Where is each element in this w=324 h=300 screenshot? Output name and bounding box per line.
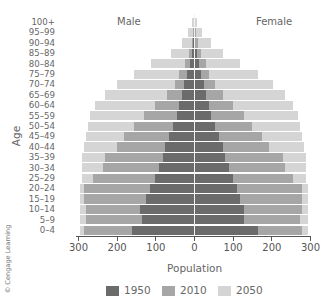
row-separator [70, 69, 320, 70]
age-label-95–99: 95–99 [29, 27, 55, 37]
age-label-45–49: 45–49 [29, 131, 55, 141]
female-bar-1950 [194, 111, 211, 120]
row-separator [70, 131, 320, 132]
male-bar-1950 [184, 80, 194, 89]
row-separator [70, 89, 320, 90]
male-bar-1950 [182, 90, 194, 99]
row-separator [70, 162, 320, 163]
female-bar-1950 [194, 132, 219, 141]
x-tick [194, 236, 195, 241]
male-bar-1950 [150, 184, 194, 193]
male-bar-1950 [159, 163, 194, 172]
copyright-credit: © Cengage Learning [4, 225, 12, 294]
row-separator [70, 27, 320, 28]
row-separator [70, 58, 320, 59]
male-bar-1950 [179, 101, 194, 110]
age-label-40–44: 40–44 [29, 142, 55, 152]
female-bar-1950 [194, 122, 215, 131]
age-label-35–39: 35–39 [29, 152, 55, 162]
x-tick-label: 300 [301, 242, 320, 253]
x-tick-label: 200 [262, 242, 281, 253]
x-tick-label: 100 [146, 242, 165, 253]
age-label-100+: 100+ [31, 17, 55, 27]
legend-swatch-1950 [106, 286, 119, 296]
female-bar-1950 [194, 184, 237, 193]
male-bar-1950 [165, 142, 194, 151]
male-bar-1950 [142, 215, 194, 224]
age-label-90–94: 90–94 [29, 38, 55, 48]
legend-swatch-2010 [162, 286, 175, 296]
male-bar-1950 [140, 205, 194, 214]
x-axis-line [76, 236, 310, 237]
male-bar-1950 [187, 70, 194, 79]
male-bar-1950 [155, 174, 194, 183]
x-tick-label: 200 [108, 242, 127, 253]
female-bar-1950 [194, 194, 240, 203]
male-bar-1950 [169, 132, 194, 141]
age-label-20–24: 20–24 [29, 183, 55, 193]
row-separator [70, 141, 320, 142]
male-bar-1950 [173, 122, 194, 131]
female-side-label: Female [256, 16, 292, 27]
x-tick [310, 236, 311, 241]
row-separator [70, 79, 320, 80]
age-label-60–64: 60–64 [29, 100, 55, 110]
age-label-10–14: 10–14 [29, 204, 55, 214]
female-bar-1950 [194, 80, 204, 89]
row-separator [70, 121, 320, 122]
row-separator [70, 183, 320, 184]
x-tick [155, 236, 156, 241]
male-side-label: Male [117, 16, 141, 27]
row-separator [70, 37, 320, 38]
row-separator [70, 152, 320, 153]
female-bar-1950 [194, 174, 233, 183]
age-label-5–9: 5–9 [40, 215, 55, 225]
age-label-55–59: 55–59 [29, 111, 55, 121]
x-tick-label: 100 [224, 242, 243, 253]
age-label-15–19: 15–19 [29, 194, 55, 204]
female-bar-1950 [194, 205, 244, 214]
age-label-80–84: 80–84 [29, 59, 55, 69]
female-bar-1950 [194, 226, 258, 235]
row-separator [70, 48, 320, 49]
age-label-30–34: 30–34 [29, 163, 55, 173]
x-tick [78, 236, 79, 241]
male-bar-1950 [177, 111, 194, 120]
female-bar-1950 [194, 153, 225, 162]
age-label-50–54: 50–54 [29, 121, 55, 131]
legend-label-1950: 1950 [124, 284, 151, 296]
x-tick [233, 236, 234, 241]
center-line [194, 14, 195, 236]
row-separator [70, 100, 320, 101]
legend-swatch-2050 [218, 286, 231, 296]
x-tick-label: 0 [191, 242, 197, 253]
female-bar-1950 [194, 70, 201, 79]
female-bar-1950 [194, 163, 229, 172]
age-label-65–69: 65–69 [29, 90, 55, 100]
row-separator [70, 110, 320, 111]
female-bar-1950 [194, 90, 206, 99]
age-label-85–89: 85–89 [29, 48, 55, 58]
row-separator [70, 173, 320, 174]
age-label-0–4: 0–4 [40, 225, 55, 235]
row-separator [70, 214, 320, 215]
row-separator [70, 225, 320, 226]
female-bar-1950 [194, 101, 209, 110]
female-bar-1950 [194, 215, 244, 224]
male-bar-1950 [146, 194, 194, 203]
x-tick-label: 300 [69, 242, 88, 253]
age-label-25–29: 25–29 [29, 173, 55, 183]
female-bar-1950 [194, 142, 223, 151]
male-bar-1950 [163, 153, 194, 162]
x-axis-title: Population [167, 262, 222, 274]
legend-label-2010: 2010 [180, 284, 207, 296]
row-separator [70, 204, 320, 205]
legend-label-2050: 2050 [236, 284, 263, 296]
age-label-75–79: 75–79 [29, 69, 55, 79]
age-label-70–74: 70–74 [29, 79, 55, 89]
row-separator [70, 193, 320, 194]
x-tick [117, 236, 118, 241]
x-tick [271, 236, 272, 241]
y-axis-title: Age [10, 126, 22, 146]
male-bar-1950 [132, 226, 194, 235]
